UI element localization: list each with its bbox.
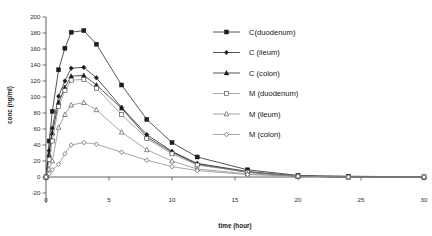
data-point-marker	[120, 83, 124, 87]
series-cduodenum	[44, 29, 426, 179]
data-point-marker	[69, 78, 73, 82]
y-tick-label: 160	[30, 45, 41, 52]
legend: C(duodenum)C (ileum)C (colon)M (duodenum…	[213, 28, 299, 140]
data-point-marker	[120, 150, 124, 155]
data-point-marker	[145, 147, 150, 151]
y-tick-label: 140	[30, 61, 41, 68]
y-tick-label: 180	[30, 29, 41, 36]
x-axis-title: time (hour)	[218, 222, 251, 230]
legend-item-c-ileum[interactable]: C (ileum)	[213, 48, 280, 57]
series-line	[46, 143, 424, 177]
legend-label: M (duodenum)	[249, 89, 299, 98]
x-tick-label: 10	[169, 196, 176, 203]
y-tick-label: 0	[37, 173, 41, 180]
legend-item-c-colon[interactable]: C (colon)	[213, 69, 280, 78]
legend-label: M (ileum)	[249, 110, 281, 119]
series-c-ileum	[44, 65, 426, 179]
y-axis-title: conc (ng/ml)	[6, 86, 14, 124]
data-point-marker	[170, 141, 174, 145]
data-point-marker	[82, 29, 86, 33]
x-tick-label: 5	[107, 196, 111, 203]
data-point-marker	[63, 79, 67, 84]
series-line	[46, 67, 424, 177]
data-point-marker	[47, 157, 51, 161]
series-c-colon	[44, 73, 427, 179]
data-point-marker	[170, 164, 174, 169]
data-point-marker	[57, 105, 61, 109]
legend-label: C(duodenum)	[249, 28, 296, 37]
data-point-marker	[63, 46, 67, 50]
data-point-marker	[69, 30, 73, 34]
x-tick-label: 0	[44, 196, 48, 203]
data-point-marker	[57, 94, 61, 99]
y-tick-label: 120	[30, 77, 41, 84]
y-axis-ticks: -20020406080100120140160180200	[30, 13, 46, 196]
series-line	[46, 79, 424, 177]
series-line	[46, 75, 424, 177]
legend-label: C (colon)	[249, 69, 280, 78]
series-m-ileum	[44, 100, 427, 179]
data-point-marker	[225, 30, 229, 34]
y-tick-label: 60	[34, 125, 41, 132]
data-point-marker	[94, 42, 98, 46]
y-tick-label: 40	[34, 141, 41, 148]
data-point-marker	[94, 86, 98, 90]
legend-label: C (ileum)	[249, 48, 280, 57]
y-tick-label: 200	[30, 13, 41, 20]
data-point-marker	[145, 137, 149, 141]
y-tick-label: 20	[34, 157, 41, 164]
legend-item-m-duodenum[interactable]: M (duodenum)	[213, 89, 299, 98]
y-tick-label: -20	[32, 189, 42, 196]
series-m-duodenum	[44, 77, 426, 179]
data-point-marker	[69, 66, 73, 71]
data-point-marker	[56, 125, 61, 129]
data-point-marker	[57, 68, 61, 72]
data-point-marker	[195, 155, 199, 159]
data-point-marker	[120, 113, 124, 117]
data-point-marker	[225, 92, 229, 96]
data-point-marker	[63, 89, 67, 93]
data-point-marker	[82, 77, 86, 81]
legend-item-cduodenum[interactable]: C(duodenum)	[213, 28, 296, 37]
chart-container: -200204060801001201401601802000510152025…	[0, 0, 432, 236]
data-point-marker	[170, 152, 174, 156]
data-point-marker	[94, 142, 98, 147]
data-point-marker	[82, 140, 86, 145]
series-m-colon	[44, 140, 426, 179]
axes	[46, 17, 424, 203]
data-point-marker	[82, 73, 87, 77]
y-tick-label: 80	[34, 109, 41, 116]
line-chart: -200204060801001201401601802000510152025…	[0, 0, 432, 236]
data-point-marker	[50, 139, 54, 143]
x-tick-label: 30	[421, 196, 428, 203]
legend-label: M (colon)	[249, 130, 281, 139]
data-point-marker	[145, 117, 149, 121]
x-axis-ticks: 051015202530	[44, 177, 428, 203]
data-point-marker	[145, 158, 149, 163]
series-group	[44, 29, 427, 180]
data-point-marker	[224, 50, 228, 55]
data-point-marker	[82, 100, 87, 104]
data-point-marker	[170, 159, 175, 163]
y-tick-label: 100	[30, 93, 41, 100]
x-tick-label: 15	[232, 196, 239, 203]
data-point-marker	[50, 109, 54, 113]
x-tick-label: 25	[358, 196, 365, 203]
legend-item-m-ileum[interactable]: M (ileum)	[213, 110, 281, 119]
legend-item-m-colon[interactable]: M (colon)	[213, 130, 281, 139]
data-point-marker	[94, 107, 99, 111]
data-point-marker	[47, 152, 52, 156]
data-point-marker	[224, 132, 228, 137]
x-tick-label: 20	[295, 196, 302, 203]
